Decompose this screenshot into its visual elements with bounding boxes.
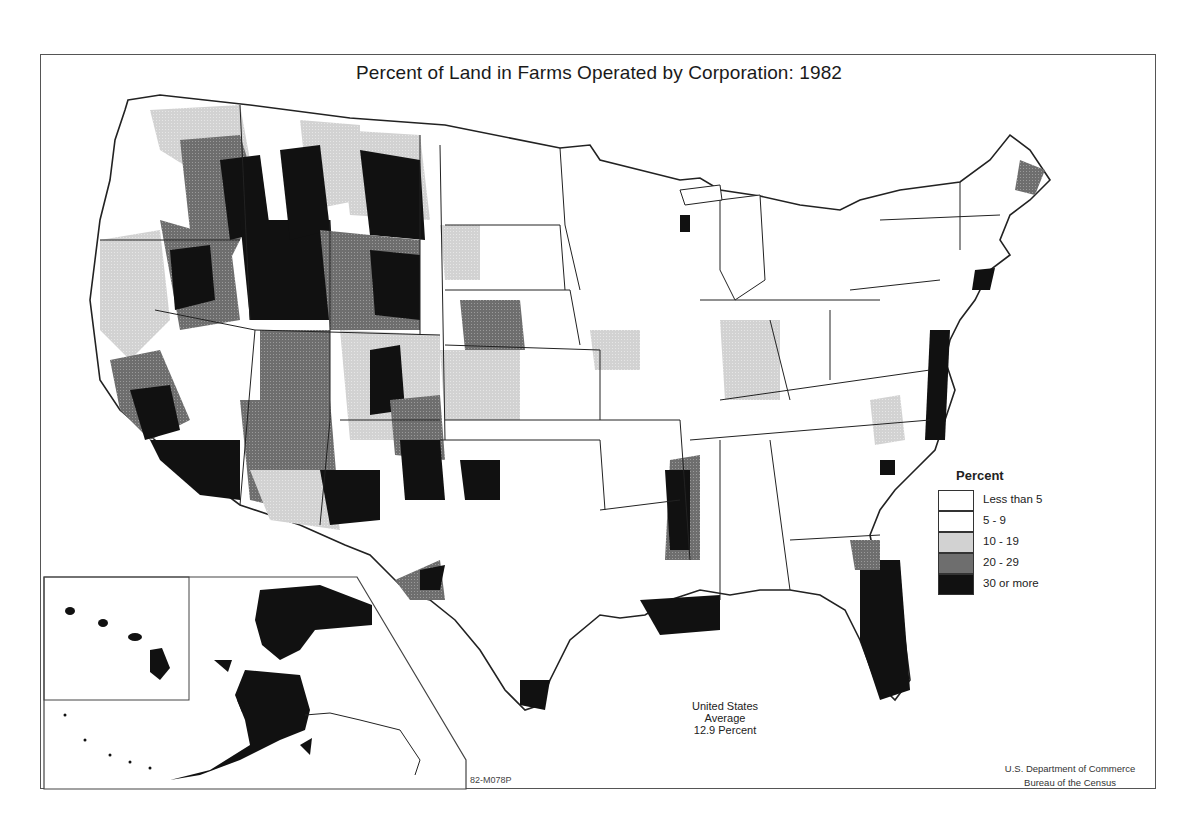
legend-label: 5 - 9 [983, 514, 1006, 526]
legend-item-20-29: 20 - 29 [938, 553, 1098, 574]
legend-item-10-19: 10 - 19 [938, 532, 1098, 553]
annotation-line: Average [660, 712, 790, 724]
legend-item-30-or-more: 30 or more [938, 574, 1098, 595]
annotation-value: 12.9 Percent [660, 724, 790, 736]
legend-item-less-than-5: Less than 5 [938, 490, 1098, 511]
map-code: 82-M078P [470, 775, 512, 785]
choropleth-map [0, 0, 1198, 831]
legend-swatch [938, 532, 974, 553]
source-credit: U.S. Department of Commerce Bureau of th… [990, 762, 1150, 790]
legend-swatch [938, 574, 974, 595]
legend-label: 10 - 19 [983, 535, 1019, 547]
legend-label: 30 or more [983, 577, 1039, 589]
legend-swatch [938, 490, 974, 511]
legend-title: Percent [956, 468, 1004, 483]
us-average-annotation: United States Average 12.9 Percent [660, 700, 790, 736]
legend-swatch [938, 511, 974, 532]
legend-label: 20 - 29 [983, 556, 1019, 568]
legend-swatch [938, 553, 974, 574]
legend-label: Less than 5 [983, 493, 1042, 505]
legend-item-5-9: 5 - 9 [938, 511, 1098, 532]
source-line: Bureau of the Census [990, 776, 1150, 790]
source-line: U.S. Department of Commerce [990, 762, 1150, 776]
inset-alaska-hawaii [44, 577, 466, 789]
annotation-line: United States [660, 700, 790, 712]
